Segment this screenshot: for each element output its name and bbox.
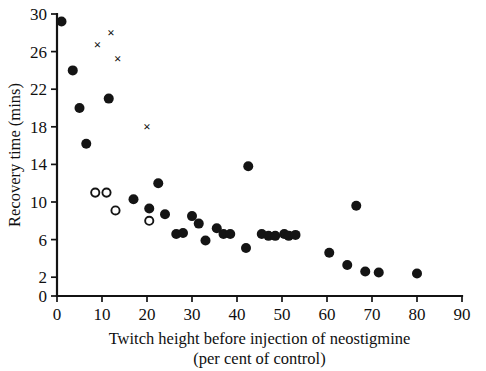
y-tick-label: 18 (30, 118, 47, 137)
scatter-plot-figure: 026101418222630 0102030405060708090 ××××… (0, 0, 486, 371)
data-point-cross: × (143, 119, 150, 134)
data-point-filled-circle (81, 139, 91, 149)
data-point-cross: × (94, 37, 101, 52)
data-point-filled-circle (342, 260, 352, 270)
data-point-filled-circle (225, 229, 235, 239)
data-point-filled-circle (153, 178, 163, 188)
data-point-filled-circle (129, 194, 139, 204)
y-tick-label: 22 (30, 80, 47, 99)
y-tick-label: 0 (39, 287, 48, 306)
x-axis-group: 0102030405060708090 (53, 296, 471, 324)
x-tick-label: 40 (229, 305, 246, 324)
y-tick-label: 6 (39, 231, 48, 250)
y-tick-label: 26 (30, 43, 47, 62)
data-point-filled-circle (270, 231, 280, 241)
data-point-filled-circle (194, 219, 204, 229)
data-point-cross: × (107, 25, 114, 40)
y-tick-label: 2 (39, 268, 48, 287)
data-point-filled-circle (178, 228, 188, 238)
x-tick-labels: 0102030405060708090 (53, 305, 471, 324)
x-axis-title-line1: Twitch height before injection of neosti… (109, 329, 411, 348)
x-tick-label: 50 (274, 305, 291, 324)
data-point-layer: ×××× (57, 17, 423, 279)
y-tick-label: 14 (30, 155, 48, 174)
data-point-filled-circle (243, 161, 253, 171)
data-point-filled-circle (75, 103, 85, 113)
y-axis-title: Recovery time (mins) (5, 83, 24, 227)
plot-canvas: 026101418222630 0102030405060708090 ××××… (0, 0, 486, 371)
data-point-filled-circle (291, 230, 301, 240)
data-point-filled-circle (160, 209, 170, 219)
data-point-open-circle (102, 189, 110, 197)
y-axis-group: 026101418222630 (30, 5, 57, 306)
data-point-filled-circle (412, 268, 422, 278)
data-point-filled-circle (351, 201, 361, 211)
x-tick-label: 60 (319, 305, 336, 324)
data-point-open-circle (145, 217, 153, 225)
x-tick-label: 90 (454, 305, 471, 324)
data-point-open-circle (91, 189, 99, 197)
data-point-cross: × (114, 51, 121, 66)
x-tick-label: 70 (364, 305, 381, 324)
x-tick-label: 0 (53, 305, 62, 324)
x-tick-label: 30 (184, 305, 201, 324)
x-tick-label: 10 (94, 305, 111, 324)
data-point-filled-circle (57, 17, 67, 27)
data-point-filled-circle (374, 268, 384, 278)
data-point-filled-circle (104, 94, 114, 104)
data-point-filled-circle (360, 267, 370, 277)
data-point-filled-circle (144, 204, 154, 214)
x-axis-title-line2: (per cent of control) (193, 349, 325, 368)
x-tick-label: 20 (139, 305, 156, 324)
x-tick-label: 80 (409, 305, 426, 324)
data-point-filled-circle (241, 243, 251, 253)
data-point-filled-circle (187, 211, 197, 221)
data-point-filled-circle (201, 236, 211, 246)
y-tick-label: 10 (30, 193, 47, 212)
data-point-open-circle (111, 206, 119, 214)
data-point-filled-circle (324, 248, 334, 258)
y-tick-label: 30 (30, 5, 47, 24)
data-point-filled-circle (68, 65, 78, 75)
y-tick-labels: 026101418222630 (30, 5, 48, 306)
